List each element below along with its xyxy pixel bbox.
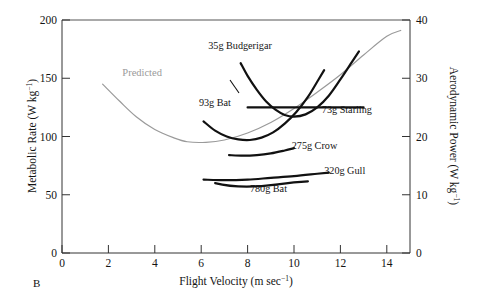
label-predicted: Predicted <box>122 67 162 78</box>
y2tick-label-40: 40 <box>416 14 428 26</box>
y2-axis-title-main: Aerodynamic Power (W kg <box>447 67 460 194</box>
series-annotations: Predicted35g Budgerigar93g Bat73g Starli… <box>122 40 372 194</box>
x-axis-ticks <box>62 245 387 253</box>
left-axis-tick-labels: 200 150 100 50 0 <box>40 14 58 259</box>
right-axis-tick-labels: 40 30 20 10 0 <box>416 14 428 259</box>
label-35g-budgerigar: 35g Budgerigar <box>208 40 272 51</box>
ytick-label-50: 50 <box>46 189 58 201</box>
label-780g-bat: 780g Bat <box>250 183 287 194</box>
y-axis-title-tail: ) <box>26 79 39 83</box>
y-axis-title-main: Metabolic Rate (W kg <box>26 91 39 194</box>
curve-275g-crow <box>229 148 294 156</box>
y2tick-label-20: 20 <box>416 131 428 143</box>
y2tick-label-30: 30 <box>416 72 428 84</box>
ytick-label-150: 150 <box>40 72 58 84</box>
x-axis-tick-labels: 0 2 4 6 8 10 12 14 <box>59 257 393 269</box>
xtick-label-4: 4 <box>152 257 158 269</box>
ytick-label-200: 200 <box>40 14 58 26</box>
xtick-label-8: 8 <box>245 257 251 269</box>
panel-label-b: B <box>33 277 41 289</box>
right-axis-ticks <box>402 20 410 253</box>
xtick-label-2: 2 <box>106 257 112 269</box>
label-leader-lines <box>230 80 239 93</box>
xtick-label-12: 12 <box>335 257 347 269</box>
label-320g-gull: 320g Gull <box>324 165 365 176</box>
label-275g-crow: 275g Crow <box>292 140 338 151</box>
y2tick-label-0: 0 <box>416 247 422 259</box>
figure-panel-b: 200 150 100 50 0 40 30 20 10 0 <box>0 0 479 300</box>
metabolic-rate-chart: 200 150 100 50 0 40 30 20 10 0 <box>0 0 479 300</box>
y2tick-label-10: 10 <box>416 189 428 201</box>
x-axis-title-tail: ) <box>289 275 293 288</box>
y2-axis-title-sup: −1 <box>452 193 461 201</box>
leader-budgerigar <box>230 80 239 93</box>
xtick-label-0: 0 <box>59 257 65 269</box>
ytick-label-100: 100 <box>40 131 58 143</box>
label-73g-starling: 73g Starling <box>322 104 372 115</box>
label-93g-bat: 93g Bat <box>199 97 231 108</box>
x-axis-title-main: Flight Velocity (m sec <box>179 275 281 288</box>
x-axis-title: Flight Velocity (m sec−1) <box>179 274 293 288</box>
xtick-label-14: 14 <box>381 257 393 269</box>
y2-axis-title: Aerodynamic Power (W kg−1) <box>447 67 461 206</box>
y2-axis-title-tail: ) <box>447 201 460 205</box>
left-axis-ticks <box>62 20 70 253</box>
curve-320g-gull <box>204 173 329 181</box>
xtick-label-6: 6 <box>198 257 204 269</box>
xtick-label-10: 10 <box>288 257 300 269</box>
ytick-label-0: 0 <box>51 247 57 259</box>
y-axis-title: Metabolic Rate (W kg−1) <box>25 79 39 193</box>
